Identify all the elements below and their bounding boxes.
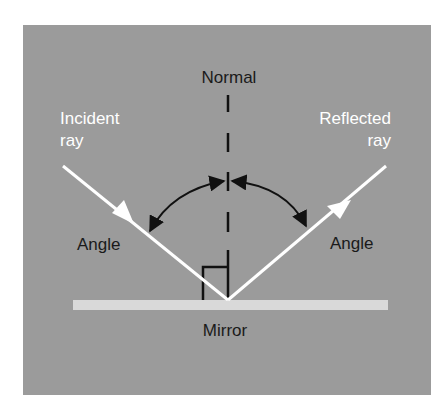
angle-label-left: Angle (77, 235, 120, 254)
normal-label: Normal (202, 68, 257, 87)
mirror-label: Mirror (203, 321, 248, 340)
reflected-label-line2: ray (367, 131, 391, 150)
incident-label-line1: Incident (60, 109, 120, 128)
reflected-label-line1: Reflected (319, 109, 391, 128)
reflection-diagram: Normal Incident ray Reflected ray Angle … (0, 0, 446, 411)
mirror-surface (73, 300, 388, 310)
incident-label-line2: ray (60, 131, 84, 150)
angle-label-right: Angle (330, 234, 373, 253)
